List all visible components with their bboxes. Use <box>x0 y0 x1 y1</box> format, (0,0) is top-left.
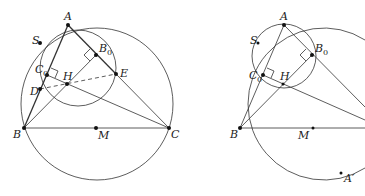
svg-text:0: 0 <box>43 69 48 78</box>
svg-text:0: 0 <box>107 48 112 57</box>
svg-text:A: A <box>63 10 72 23</box>
svg-text:B: B <box>98 42 107 55</box>
svg-text:M: M <box>97 129 110 142</box>
svg-text:M: M <box>297 129 310 142</box>
svg-text:C: C <box>171 128 180 141</box>
svg-text:S: S <box>250 34 258 47</box>
svg-text:B: B <box>314 42 323 55</box>
svg-text:H: H <box>279 70 290 83</box>
svg-text:E: E <box>119 67 128 80</box>
svg-text:B: B <box>12 128 21 141</box>
geometry-diagram: A S B0 C0 H D E B M C A S B0 C0 H B M A′ <box>0 0 365 196</box>
svg-text:B: B <box>229 128 238 141</box>
svg-text:H: H <box>62 70 73 83</box>
svg-text:A′: A′ <box>343 172 355 185</box>
svg-text:D: D <box>29 85 39 98</box>
left-figure <box>21 25 173 180</box>
right-figure <box>240 24 365 180</box>
svg-text:S: S <box>32 34 40 47</box>
circumcircle-right <box>248 28 365 180</box>
svg-text:0: 0 <box>257 75 262 84</box>
svg-text:A: A <box>279 10 288 23</box>
svg-text:0: 0 <box>323 48 328 57</box>
